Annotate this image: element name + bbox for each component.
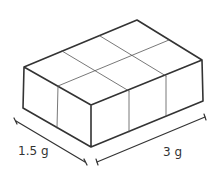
block-outline	[23, 20, 203, 147]
width-label: 3 g	[163, 145, 182, 159]
top-face-grid	[58, 36, 169, 91]
depth-label: 1.5 g	[18, 144, 49, 158]
